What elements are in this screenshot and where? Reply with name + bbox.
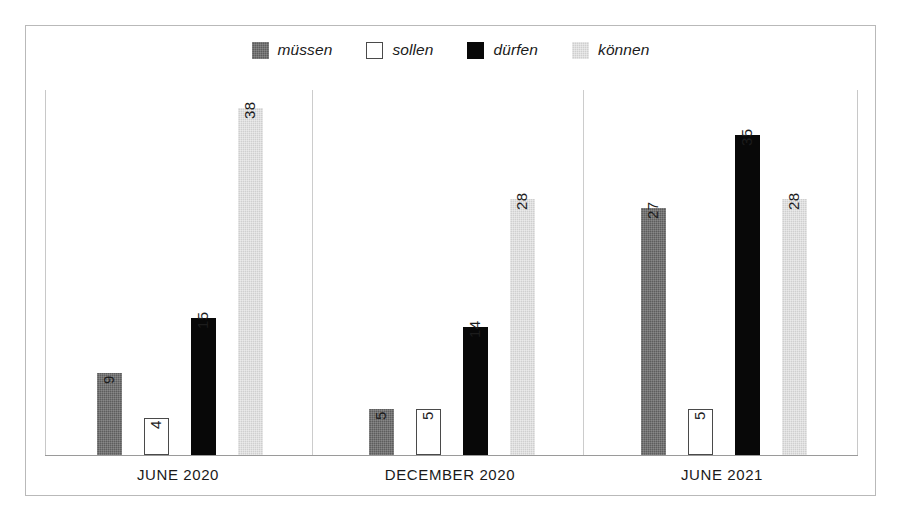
- group-separator-1: [312, 90, 313, 455]
- bar-konnen-group-1: [238, 108, 263, 455]
- legend-label-konnen: können: [598, 41, 649, 59]
- bar-value-label-mussen-group-2: 5: [372, 411, 389, 420]
- legend-item-sollen: sollen: [366, 41, 433, 59]
- bar-value-label-konnen-group-2: 28: [513, 193, 530, 210]
- axis-baseline: [45, 455, 858, 456]
- group-separator-2: [583, 90, 584, 455]
- bar-value-label-sollen-group-3: 5: [691, 411, 708, 420]
- category-label-2: DECEMBER 2020: [340, 466, 560, 483]
- bar-value-label-mussen-group-3: 27: [644, 202, 661, 219]
- bar-value-label-mussen-group-1: 9: [100, 375, 117, 384]
- bar-mussen-group-1: [97, 373, 122, 455]
- plot-area: 9415385514282753528: [45, 90, 858, 455]
- chart-legend: müssen sollen dürfen können: [25, 38, 876, 62]
- legend-swatch-sollen-icon: [366, 42, 383, 59]
- bar-value-label-durfen-group-1: 15: [194, 312, 211, 329]
- bar-value-label-sollen-group-1: 4: [147, 420, 164, 429]
- bar-durfen-group-1: [191, 318, 216, 455]
- bar-value-label-durfen-group-2: 14: [466, 321, 483, 338]
- axis-rule-left: [45, 90, 46, 455]
- bar-value-label-konnen-group-3: 28: [785, 193, 802, 210]
- bar-durfen-group-3: [735, 135, 760, 455]
- legend-swatch-durfen-icon: [467, 42, 484, 59]
- legend-label-mussen: müssen: [278, 41, 333, 59]
- legend-item-durfen: dürfen: [467, 41, 538, 59]
- chart-figure: müssen sollen dürfen können 941538551428…: [0, 0, 904, 521]
- legend-item-konnen: können: [572, 41, 649, 59]
- axis-rule-right: [857, 90, 858, 455]
- bar-konnen-group-2: [510, 199, 535, 455]
- bar-value-label-durfen-group-3: 35: [738, 129, 755, 146]
- category-label-3: JUNE 2021: [612, 466, 832, 483]
- legend-label-sollen: sollen: [392, 41, 433, 59]
- bar-value-label-sollen-group-2: 5: [419, 411, 436, 420]
- legend-item-mussen: müssen: [252, 41, 333, 59]
- category-label-1: JUNE 2020: [68, 466, 288, 483]
- bar-konnen-group-3: [782, 199, 807, 455]
- bar-durfen-group-2: [463, 327, 488, 455]
- bar-value-label-konnen-group-1: 38: [241, 102, 258, 119]
- legend-swatch-mussen-icon: [252, 42, 269, 59]
- legend-label-durfen: dürfen: [493, 41, 538, 59]
- bar-mussen-group-3: [641, 208, 666, 455]
- legend-swatch-konnen-icon: [572, 42, 589, 59]
